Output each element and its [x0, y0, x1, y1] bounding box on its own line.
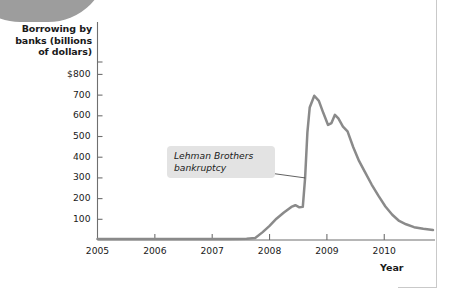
annotation-callout: Lehman Brothers bankruptcy	[167, 146, 275, 178]
line-chart: Borrowing by banks (billions of dollars)…	[0, 0, 455, 296]
figure-page: Borrowing by banks (billions of dollars)…	[0, 0, 455, 296]
